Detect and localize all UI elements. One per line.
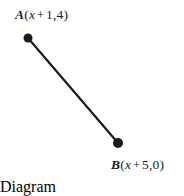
point-a-coordinates: 1,4 <box>46 7 63 22</box>
point-a-dot <box>24 34 33 43</box>
segment-ab <box>28 38 118 143</box>
point-b-name: B <box>111 157 120 172</box>
point-b-coordinates: 5,0 <box>142 157 159 172</box>
line-segment-figure: A(x+1,4) B(x+5,0) <box>0 0 184 178</box>
point-b-close-paren: ) <box>159 157 164 172</box>
point-b-label: B(x+5,0) <box>111 157 164 173</box>
point-a-close-paren: ) <box>63 7 68 22</box>
point-b-operator: + <box>131 157 142 172</box>
point-a-name: A <box>15 7 24 22</box>
diagram-canvas <box>0 0 184 178</box>
point-a-operator: + <box>35 7 46 22</box>
point-b-dot <box>113 138 123 148</box>
point-a-label: A(x+1,4) <box>15 7 68 23</box>
